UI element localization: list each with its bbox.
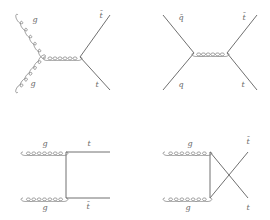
label-gluon-in-bottom: g [42,204,47,212]
label-top-out: t [246,204,249,212]
antitop-line [80,15,110,57]
label-antitop-out: t̄ [246,138,249,146]
label-gluon-in-top: g [187,140,192,148]
label-top-out: t [241,81,244,89]
label-gluon-in-bottom: g [30,80,35,88]
label-antiquark-in: q̄ [178,14,183,22]
label-top-out: t [87,140,90,148]
label-antitop-out: t̄ [86,203,89,211]
gluon-line-incoming-bottom [21,198,68,202]
diagram-qqbar-s-channel [163,15,257,90]
label-quark-in: q [178,81,183,89]
label-antitop-out: t̄ [242,14,245,22]
label-antitop-out: t̄ [99,12,102,20]
gluon-propagator [43,57,82,61]
label-gluon-in-bottom: g [185,204,190,212]
label-gluon-in-top: g [42,140,47,148]
diagram-gg-u-channel [163,152,248,202]
gluon-propagator [192,53,229,57]
gluon-line-incoming-bottom [163,198,212,202]
diagram-gg-t-channel [21,152,110,202]
gluon-line-incoming-top [163,152,212,156]
label-top-out: t [95,81,98,89]
label-gluon-in-top: g [32,16,37,24]
gluon-line-incoming-top [21,152,68,156]
gluon-line-incoming-top [16,14,45,59]
